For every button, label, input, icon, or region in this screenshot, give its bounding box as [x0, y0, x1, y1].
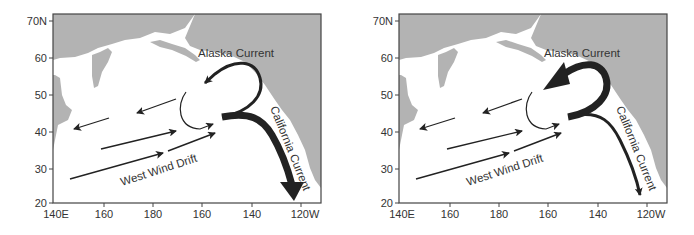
x-tick-label: 180	[144, 208, 162, 220]
x-tick-label: 120W	[637, 208, 666, 220]
y-axis-right: 70N 60 50 40 30 20	[373, 15, 399, 209]
x-tick-label: 160	[539, 208, 557, 220]
y-tick-label: 30	[381, 163, 393, 175]
y-tick-label: 40	[381, 126, 393, 138]
x-axis-right: 140E 160 180 160 140 120W	[389, 203, 666, 220]
panel-right: 70N 60 50 40 30 20 140E 160 180 160 140 …	[373, 14, 667, 220]
x-tick-label: 180	[490, 208, 508, 220]
x-tick-label: 160	[95, 208, 113, 220]
x-tick-label: 140	[243, 208, 261, 220]
x-tick-label: 120W	[291, 208, 320, 220]
label-alaska-current: Alaska Current	[544, 47, 621, 59]
x-tick-label: 140E	[389, 208, 415, 220]
y-tick-label: 30	[35, 163, 47, 175]
y-tick-label: 60	[381, 52, 393, 64]
label-alaska-current: Alaska Current	[198, 47, 275, 59]
panel-left: 70N 60 50 40 30 20 140E 160 180 160 140 …	[27, 14, 321, 220]
y-tick-label: 50	[35, 89, 47, 101]
figure: 70N 60 50 40 30 20 140E 160 180 160 140 …	[0, 0, 694, 235]
x-tick-label: 160	[441, 208, 459, 220]
x-tick-label: 140E	[43, 208, 69, 220]
x-tick-label: 140	[589, 208, 607, 220]
x-tick-label: 160	[193, 208, 211, 220]
x-axis-left: 140E 160 180 160 140 120W	[43, 203, 320, 220]
y-tick-label: 60	[35, 52, 47, 64]
y-axis-left: 70N 60 50 40 30 20	[27, 15, 53, 209]
y-tick-label: 40	[35, 126, 47, 138]
y-tick-label: 70N	[27, 15, 47, 27]
y-tick-label: 50	[381, 89, 393, 101]
y-tick-label: 70N	[373, 15, 393, 27]
